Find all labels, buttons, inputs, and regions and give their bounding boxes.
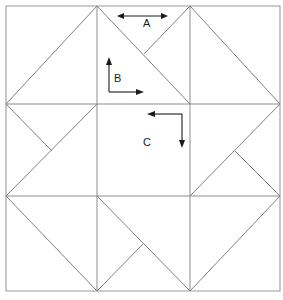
cell-bottom-right-diagonals [190,196,280,291]
arrow-b-head-right [136,89,144,95]
quilt-block-diagram: A B C [0,0,283,300]
arrow-c-head-down [179,140,185,148]
dimension-label-c: C [143,137,151,148]
outer-square-frame [6,6,280,291]
dimension-arrow-b [106,57,144,95]
arrow-a-head-left [117,13,124,19]
cell-bottom-left-diagonals [6,196,97,291]
arrow-b-head-up [106,57,112,65]
diagonal-middle-left-half [6,104,52,151]
diagonal-top-right-cell [190,6,280,104]
quilt-block-svg [0,0,283,300]
diagonal-top-left-cell [6,6,97,104]
cell-top-right-diagonals [190,6,280,104]
diagonal-top-center-half [144,6,190,54]
dimension-label-a: A [143,18,150,29]
cell-middle-left-diagonals [6,104,97,196]
diagonal-bottom-center-half [97,243,144,291]
cell-top-left-diagonals [6,6,97,104]
cell-middle-right-diagonals [190,104,280,196]
diagonal-middle-right-half [235,151,280,196]
dimension-arrow-c [147,111,185,148]
arrow-a-head-right [161,13,168,19]
dimension-label-b: B [114,73,121,84]
grid-lines [6,6,280,291]
cell-bottom-center-diagonals [97,196,190,291]
arrow-c-head-left [147,111,155,117]
diagonal-bottom-right-cell [190,196,280,291]
diagonal-bottom-left-cell [6,196,97,291]
